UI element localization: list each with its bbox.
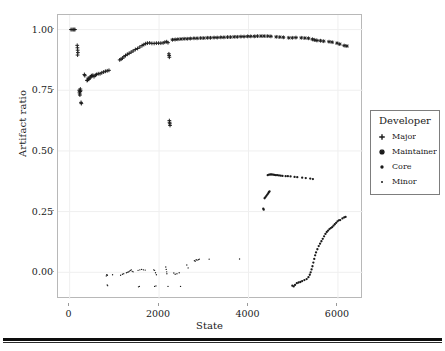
legend-item-label: Core [392, 162, 412, 171]
series-maintainer [171, 34, 349, 48]
x-tick-label: 2000 [133, 308, 183, 319]
x-axis-title: State [57, 320, 362, 331]
x-tick-mark [68, 303, 69, 306]
legend-item-minor[interactable]: Minor [371, 174, 439, 189]
y-tick-label: 0.00 [19, 266, 53, 277]
series-major [69, 28, 172, 128]
y-tick-mark [51, 271, 54, 272]
chart-figure: 0.000.250.500.751.00 Artifact ratio 0200… [0, 0, 445, 351]
y-tick-label: 1.00 [19, 23, 53, 34]
x-tick-label: 6000 [312, 308, 362, 319]
legend-item-major[interactable]: Major [371, 129, 439, 144]
small-dot-icon [375, 175, 389, 189]
x-tick-mark [158, 303, 159, 306]
x-tick-mark [247, 303, 248, 306]
series-core [262, 173, 347, 287]
y-tick-label: 0.25 [19, 205, 53, 216]
legend-item-core[interactable]: Core [371, 159, 439, 174]
y-tick-mark [51, 149, 54, 150]
series-minor [106, 258, 241, 287]
y-axis-title: Artifact ratio [17, 64, 28, 184]
y-tick-mark [51, 210, 54, 211]
legend-item-label: Minor [392, 177, 417, 186]
x-axis-tick-labels: 0200040006000 [57, 303, 362, 319]
x-tick-mark [336, 303, 337, 306]
asterisk-icon [375, 145, 389, 159]
x-tick-label: 4000 [223, 308, 273, 319]
legend-box: Developer MajorMaintainerCoreMinor [370, 110, 440, 195]
y-tick-mark [51, 28, 54, 29]
bottom-divider-rule-thin [3, 342, 442, 343]
y-tick-mark [51, 89, 54, 90]
x-tick-label: 0 [44, 308, 94, 319]
scatter-plot-canvas [58, 15, 363, 299]
bottom-divider-rule [3, 338, 442, 341]
legend-item-maintainer[interactable]: Maintainer [371, 144, 439, 159]
legend-item-label: Major [392, 132, 416, 141]
plot-panel [57, 14, 362, 298]
legend-entries: MajorMaintainerCoreMinor [371, 129, 439, 189]
legend-title: Developer [371, 114, 439, 129]
dot-icon [375, 160, 389, 174]
gridlines [58, 15, 363, 299]
plus-icon [375, 130, 389, 144]
legend-item-label: Maintainer [392, 147, 437, 156]
